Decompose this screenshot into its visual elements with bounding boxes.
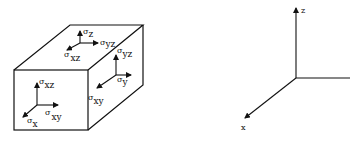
x-axis-label: x bbox=[241, 123, 246, 132]
label-sigma-z: σz bbox=[83, 27, 93, 39]
label-sigma-xz-top: σxz bbox=[64, 50, 81, 63]
x-axis bbox=[245, 78, 296, 118]
cube-top-face bbox=[14, 25, 143, 70]
sigma-xy-right-arrow bbox=[97, 75, 116, 88]
reference-axes bbox=[245, 8, 350, 118]
label-sigma-yz-top: σyz bbox=[100, 38, 116, 49]
label-sigma-x: σx bbox=[27, 116, 38, 129]
stress-element-diagram: σz σyz σxz σyz σy σxy σxz σxy σx z x bbox=[0, 0, 350, 141]
label-sigma-xy-front: σxy bbox=[45, 108, 63, 122]
label-sigma-yz-right: σyz bbox=[117, 46, 133, 59]
cube-right-face bbox=[88, 25, 143, 130]
label-sigma-xy-right: σxy bbox=[88, 93, 105, 106]
label-sigma-xz-front: σxz bbox=[39, 77, 55, 90]
z-axis-label: z bbox=[301, 6, 305, 15]
sigma-xz-top-arrow bbox=[67, 43, 80, 50]
label-sigma-y: σy bbox=[117, 75, 128, 87]
